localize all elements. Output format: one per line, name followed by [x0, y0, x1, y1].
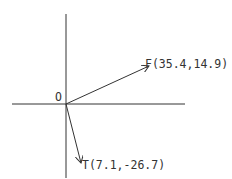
vector-t-label: T(7.1,-26.7) [82, 158, 165, 172]
origin-label: O [55, 90, 62, 104]
vector-diagram: O F(35.4,14.9) T(7.1,-26.7) [0, 0, 232, 179]
vector-f-arrow [66, 66, 149, 104]
vector-t-arrow [66, 104, 81, 163]
vector-f-label: F(35.4,14.9) [145, 57, 228, 71]
